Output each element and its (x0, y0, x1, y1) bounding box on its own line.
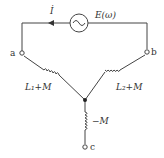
inductor-right-label: L₂+M (116, 83, 142, 92)
wire-b-to-inductor (120, 55, 145, 70)
terminal-b (145, 50, 149, 54)
terminal-a (20, 51, 24, 55)
wire-inductor-to-junction-right (85, 72, 105, 100)
circuit-diagram (0, 0, 164, 158)
source-label: E(ω) (95, 11, 116, 20)
current-arrow-icon (48, 20, 54, 26)
inductor-bottom-label: −M (92, 117, 109, 126)
wire-inductor-to-junction (59, 75, 85, 100)
inductor-bottom-icon (85, 112, 87, 130)
terminal-c (83, 145, 87, 149)
terminal-b-label: b (151, 48, 157, 57)
wire-a-to-inductor (24, 56, 44, 70)
terminal-a-label: a (10, 49, 15, 58)
sine-glyph (73, 21, 85, 26)
inductor-left-icon (44, 69, 59, 75)
terminal-c-label: c (90, 143, 95, 152)
junction-dot (83, 98, 87, 102)
inductor-left-label: L₁+M (25, 83, 51, 92)
inductor-right-icon (105, 70, 120, 72)
current-label: İ (50, 7, 54, 16)
